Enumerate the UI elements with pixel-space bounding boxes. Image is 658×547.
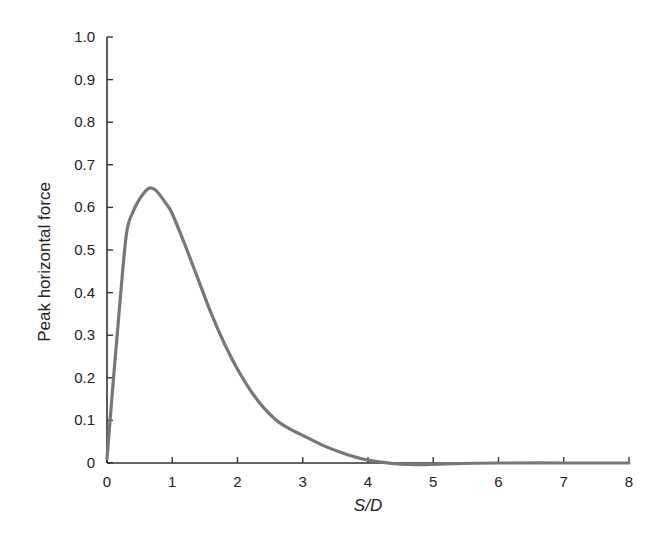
y-tick-label: 0.6 xyxy=(74,198,95,215)
x-tick-label: 1 xyxy=(168,473,176,490)
x-tick-label: 5 xyxy=(429,473,437,490)
x-tick-label: 3 xyxy=(299,473,307,490)
x-tick-label: 6 xyxy=(494,473,502,490)
y-tick-label: 0.5 xyxy=(74,241,95,258)
y-axis-title: Peak horizontal force xyxy=(35,182,54,342)
y-tick-label: 0.1 xyxy=(74,411,95,428)
y-axis: 00.10.20.30.40.50.60.70.80.91.0 xyxy=(74,28,113,471)
y-tick-label: 0 xyxy=(87,454,95,471)
x-axis-title: S/D xyxy=(354,496,382,515)
y-tick-label: 1.0 xyxy=(74,28,95,45)
x-tick-label: 2 xyxy=(233,473,241,490)
chart: 00.10.20.30.40.50.60.70.80.91.0 01234567… xyxy=(0,0,658,547)
y-tick-label: 0.9 xyxy=(74,71,95,88)
y-tick-label: 0.8 xyxy=(74,113,95,130)
x-tick-label: 8 xyxy=(625,473,633,490)
y-tick-label: 0.3 xyxy=(74,326,95,343)
y-tick-label: 0.7 xyxy=(74,156,95,173)
y-tick-label: 0.2 xyxy=(74,369,95,386)
data-line xyxy=(107,188,629,465)
x-tick-label: 0 xyxy=(103,473,111,490)
x-tick-label: 7 xyxy=(560,473,568,490)
series-group xyxy=(107,188,629,465)
y-tick-label: 0.4 xyxy=(74,284,95,301)
x-tick-label: 4 xyxy=(364,473,372,490)
